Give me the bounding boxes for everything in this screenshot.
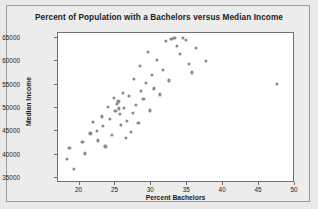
x-tick-mark xyxy=(222,182,223,185)
data-point xyxy=(140,89,143,92)
data-point xyxy=(131,112,134,115)
data-point xyxy=(121,91,124,94)
data-point xyxy=(100,115,103,118)
data-point xyxy=(81,141,84,144)
data-point xyxy=(128,94,131,97)
x-tick-label: 30 xyxy=(130,186,170,193)
data-point xyxy=(187,62,190,65)
data-point xyxy=(65,157,68,160)
y-tick-label: 65000 xyxy=(0,33,20,40)
data-point xyxy=(167,79,170,82)
data-point xyxy=(95,129,98,132)
data-point xyxy=(184,38,187,41)
data-point xyxy=(72,167,75,170)
plot-area xyxy=(57,32,294,182)
data-point xyxy=(148,109,151,112)
data-point xyxy=(146,50,149,53)
y-tick-label: 50000 xyxy=(0,104,20,111)
data-point xyxy=(108,118,111,121)
data-point xyxy=(124,136,127,139)
y-axis-label: Median Income xyxy=(25,62,32,142)
data-point xyxy=(117,107,120,110)
x-tick-mark xyxy=(114,182,115,185)
data-point xyxy=(161,68,164,71)
data-point xyxy=(107,105,110,108)
x-axis-label: Percent Bachelors xyxy=(57,194,294,201)
data-point xyxy=(112,97,115,100)
data-point xyxy=(110,134,113,137)
data-point xyxy=(89,132,92,135)
data-point xyxy=(104,145,107,148)
data-point xyxy=(178,52,181,55)
data-point xyxy=(144,81,147,84)
x-tick-mark xyxy=(294,182,295,185)
chart-frame: Percent of Population with a Bachelors v… xyxy=(6,5,310,202)
data-point xyxy=(125,120,128,123)
data-point xyxy=(150,73,153,76)
data-point xyxy=(173,37,176,40)
data-point xyxy=(153,87,156,90)
data-point xyxy=(84,152,87,155)
x-tick-mark xyxy=(186,182,187,185)
y-tick-label: 35000 xyxy=(0,174,20,181)
data-point xyxy=(135,104,138,107)
data-point xyxy=(122,106,125,109)
data-point xyxy=(92,120,95,123)
data-point xyxy=(190,71,193,74)
x-tick-label: 35 xyxy=(166,186,206,193)
data-point xyxy=(142,98,145,101)
data-point xyxy=(137,121,140,124)
data-point xyxy=(97,139,100,142)
x-tick-mark xyxy=(258,182,259,185)
chart-title: Percent of Population with a Bachelors v… xyxy=(7,13,311,22)
data-point xyxy=(164,39,167,42)
data-point xyxy=(194,46,197,49)
data-point xyxy=(156,58,159,61)
x-tick-label: 20 xyxy=(59,186,99,193)
data-point xyxy=(158,93,161,96)
y-tick-label: 40000 xyxy=(0,150,20,157)
data-point xyxy=(204,59,207,62)
data-point xyxy=(102,125,105,128)
x-tick-label: 45 xyxy=(238,186,278,193)
data-point xyxy=(176,44,179,47)
data-point xyxy=(133,77,136,80)
data-point xyxy=(68,146,71,149)
y-tick-label: 45000 xyxy=(0,127,20,134)
x-tick-label: 40 xyxy=(202,186,242,193)
data-point xyxy=(129,130,132,133)
x-tick-label: 50 xyxy=(274,186,314,193)
data-point xyxy=(114,110,117,113)
y-tick-label: 60000 xyxy=(0,57,20,64)
scatter-points xyxy=(58,33,293,181)
y-tick-label: 55000 xyxy=(0,80,20,87)
data-point xyxy=(138,65,141,68)
data-point xyxy=(115,103,118,106)
data-point xyxy=(275,83,278,86)
data-point xyxy=(120,123,123,126)
data-point xyxy=(117,100,120,103)
x-tick-mark xyxy=(79,182,80,185)
data-point xyxy=(118,113,121,116)
x-tick-mark xyxy=(150,182,151,185)
x-tick-label: 25 xyxy=(94,186,134,193)
